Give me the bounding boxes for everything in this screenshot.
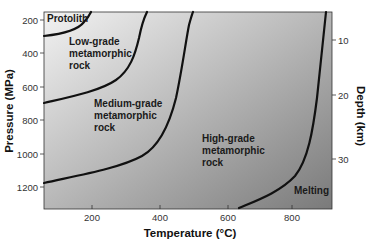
label-protolith: Protolith bbox=[47, 13, 88, 24]
svg-text:1200: 1200 bbox=[17, 182, 38, 193]
svg-text:10: 10 bbox=[338, 35, 349, 46]
pressure-axis-title: Pressure (MPa) bbox=[3, 69, 15, 153]
svg-text:1000: 1000 bbox=[17, 149, 38, 160]
svg-text:200: 200 bbox=[84, 212, 100, 223]
svg-text:20: 20 bbox=[338, 90, 349, 101]
pressure-tick-labels: 200 400 600 800 1000 1200 bbox=[17, 15, 38, 193]
depth-tick-labels: 10 20 30 bbox=[338, 35, 349, 165]
svg-text:800: 800 bbox=[22, 115, 38, 126]
label-melting: Melting bbox=[294, 185, 329, 196]
svg-text:800: 800 bbox=[284, 212, 300, 223]
depth-axis-title: Depth (km) bbox=[355, 86, 367, 146]
svg-text:600: 600 bbox=[220, 212, 236, 223]
svg-text:400: 400 bbox=[22, 48, 38, 59]
svg-text:200: 200 bbox=[22, 15, 38, 26]
temperature-tick-labels: 200 400 600 800 bbox=[84, 212, 300, 223]
metamorphic-grade-diagram: Protolith Low-grade metamorphic rock Med… bbox=[0, 0, 367, 242]
temperature-axis-title: Temperature (°C) bbox=[144, 227, 237, 239]
svg-text:600: 600 bbox=[22, 82, 38, 93]
depth-axis bbox=[332, 40, 336, 159]
svg-text:30: 30 bbox=[338, 154, 349, 165]
svg-text:400: 400 bbox=[152, 212, 168, 223]
